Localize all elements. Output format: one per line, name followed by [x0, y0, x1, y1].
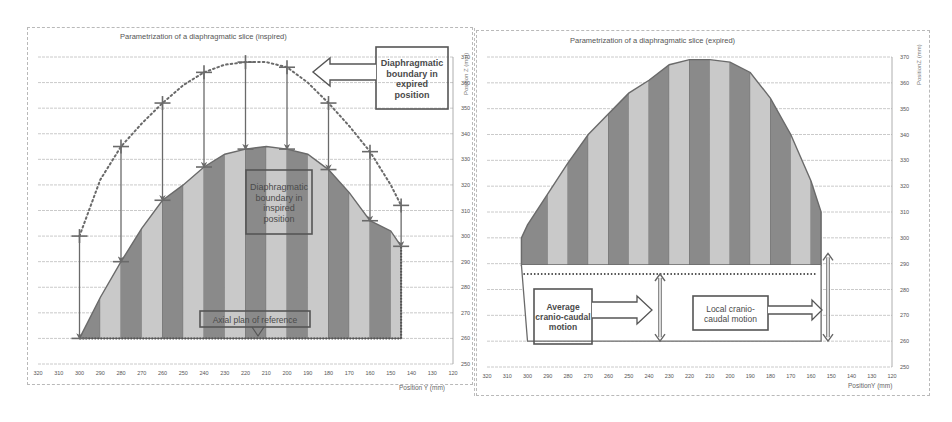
x-tick-label: 300 [523, 373, 532, 379]
left-chart: 2502602702802903003103203303403503603703… [33, 0, 470, 422]
x-tick-label: 170 [345, 370, 354, 376]
x-tick-label: 180 [766, 373, 775, 379]
y-tick-label: 360 [461, 80, 470, 86]
charts-canvas: 2502602702802903003103203303403503603703… [0, 0, 952, 422]
x-tick-label: 120 [887, 373, 896, 379]
area-bands [521, 0, 821, 422]
y-tick-label: 330 [461, 156, 470, 162]
x-tick-label: 260 [604, 373, 613, 379]
x-tick-label: 290 [96, 370, 105, 376]
x-tick-label: 160 [806, 373, 815, 379]
area-band [649, 0, 669, 422]
area-band [204, 0, 225, 422]
x-tick-label: 300 [75, 370, 84, 376]
x-tick-label: 280 [563, 373, 572, 379]
callout-average-text: Average [546, 302, 580, 312]
y-tick-label: 360 [900, 80, 909, 86]
y-tick-label: 290 [900, 261, 909, 267]
y-tick-label: 350 [461, 105, 470, 111]
x-tick-label: 220 [685, 373, 694, 379]
area-band [750, 0, 770, 422]
y-tick-label: 370 [900, 54, 909, 60]
y-tick-label: 280 [461, 284, 470, 290]
y-tick-label: 300 [900, 235, 909, 241]
x-tick-label: 250 [179, 370, 188, 376]
x-tick-label: 140 [407, 370, 416, 376]
callout-expired-arrow [313, 58, 376, 86]
callout-inspired-text: boundary in [255, 193, 302, 203]
area-band [791, 0, 811, 422]
callout-local-text: caudal motion [704, 314, 757, 324]
x-tick-label: 170 [786, 373, 795, 379]
x-tick-label: 200 [725, 373, 734, 379]
y-tick-label: 320 [461, 182, 470, 188]
y-tick-label: 370 [461, 54, 470, 60]
y-tick-label: 300 [461, 233, 470, 239]
x-tick-label: 120 [448, 370, 457, 376]
x-tick-label: 280 [116, 370, 125, 376]
y-tick-label: 340 [461, 131, 470, 137]
x-tick-label: 320 [33, 370, 42, 376]
y-tick-label: 270 [461, 310, 470, 316]
y-tick-label: 310 [900, 209, 909, 215]
x-tick-label: 270 [137, 370, 146, 376]
callout-average-text: motion [549, 322, 577, 332]
area-band [121, 0, 142, 422]
x-tick-label: 240 [644, 373, 653, 379]
x-tick-label: 310 [54, 370, 63, 376]
right-chart: 2502602702802903003103203303403503603703… [482, 0, 909, 422]
area-band [183, 0, 204, 422]
area-band [609, 0, 629, 422]
y-tick-label: 250 [461, 361, 470, 367]
x-tick-label: 200 [282, 370, 291, 376]
x-tick-label: 240 [199, 370, 208, 376]
callout-expired-text: position [395, 90, 430, 100]
x-tick-label: 210 [262, 370, 271, 376]
area-band [568, 0, 588, 422]
x-tick-label: 160 [365, 370, 374, 376]
callout-expired-text: Diaphragmatic [381, 58, 444, 68]
area-band [771, 0, 791, 422]
x-tick-label: 150 [386, 370, 395, 376]
y-tick-label: 260 [461, 335, 470, 341]
callout-inspired-text: position [263, 214, 294, 224]
x-tick-label: 250 [624, 373, 633, 379]
callout-local-text: Local cranio- [706, 304, 755, 314]
y-tick-label: 340 [900, 132, 909, 138]
area-band [142, 0, 163, 422]
callout-expired-text: boundary in [386, 69, 438, 79]
area-band [521, 0, 547, 422]
x-tick-label: 320 [482, 373, 491, 379]
callout-average-text: cranio-caudal [535, 312, 590, 322]
x-tick-label: 210 [705, 373, 714, 379]
y-tick-label: 280 [900, 287, 909, 293]
x-tick-label: 310 [503, 373, 512, 379]
y-tick-label: 330 [900, 157, 909, 163]
x-tick-label: 260 [158, 370, 167, 376]
area-band [710, 0, 730, 422]
area-band [588, 0, 608, 422]
x-tick-label: 150 [827, 373, 836, 379]
x-tick-label: 190 [303, 370, 312, 376]
x-tick-label: 230 [665, 373, 674, 379]
area-band [100, 0, 121, 422]
y-tick-label: 350 [900, 106, 909, 112]
x-tick-label: 230 [220, 370, 229, 376]
y-tick-label: 260 [900, 338, 909, 344]
y-tick-label: 290 [461, 259, 470, 265]
area-band [811, 0, 821, 422]
x-tick-label: 220 [241, 370, 250, 376]
area-band [80, 0, 101, 422]
callout-reference-text: Axial plan of reference [213, 315, 298, 325]
x-tick-label: 180 [324, 370, 333, 376]
area-band [548, 0, 568, 422]
callout-inspired-text: inspired [263, 203, 295, 213]
callout-expired-text: expired [396, 79, 428, 89]
x-tick-label: 190 [746, 373, 755, 379]
y-tick-label: 320 [900, 183, 909, 189]
area-band [690, 0, 710, 422]
x-tick-label: 290 [543, 373, 552, 379]
x-tick-label: 130 [428, 370, 437, 376]
callout-inspired-text: Diaphragmatic [250, 182, 309, 192]
area-band [163, 0, 184, 422]
